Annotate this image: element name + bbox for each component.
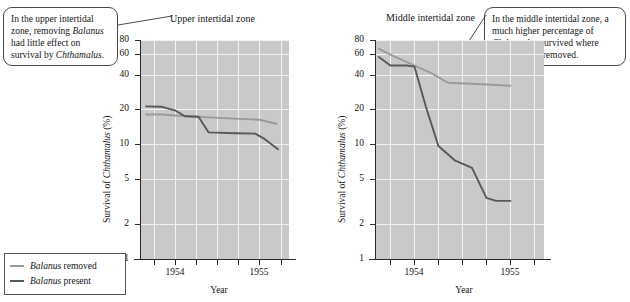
y-axis-tick — [370, 40, 375, 41]
x-axis-tick — [196, 260, 197, 265]
y-axis-tick — [135, 109, 140, 110]
series-line — [146, 115, 276, 124]
x-axis-tick — [175, 260, 176, 265]
y-axis-tick — [135, 40, 140, 41]
y-axis-tick-label: 20 — [340, 104, 364, 114]
plot-area-middle — [376, 40, 544, 259]
y-axis-tick — [370, 224, 375, 225]
x-axis-tick — [390, 260, 391, 265]
y-axis-tick — [135, 179, 140, 180]
x-axis-tick — [510, 260, 511, 265]
x-axis-tick-label: 1954 — [155, 268, 195, 278]
series-layer-upper — [141, 40, 289, 259]
plot-area-upper — [141, 40, 289, 259]
y-axis-tick — [135, 54, 140, 55]
legend-swatch-present — [10, 280, 24, 282]
x-axis-tick — [462, 260, 463, 265]
y-axis-tick — [135, 259, 140, 260]
x-axis-tick — [217, 260, 218, 265]
legend-label-present: Balanus present — [30, 276, 91, 286]
x-axis-tick — [259, 260, 260, 265]
y-axis-tick-label: 60 — [105, 49, 129, 59]
y-axis-tick-label: 80 — [340, 35, 364, 45]
y-axis-tick-label: 20 — [105, 104, 129, 114]
y-axis-tick — [370, 259, 375, 260]
y-axis-tick-label: 80 — [105, 35, 129, 45]
series-line — [379, 49, 511, 86]
legend-item-balanus-present: Balanus present — [10, 273, 120, 288]
x-axis-title-upper: Year — [169, 285, 269, 295]
x-axis-upper — [134, 259, 296, 260]
y-axis-tick-label: 60 — [340, 49, 364, 59]
chart-panel-middle: 125102040608019541955 Year Survival of C… — [329, 33, 529, 278]
y-axis-tick — [135, 144, 140, 145]
y-axis-tick-label: 40 — [105, 70, 129, 80]
x-axis-tick-label: 1955 — [490, 268, 530, 278]
y-axis-tick — [135, 224, 140, 225]
y-axis-tick-label: 1 — [340, 254, 364, 264]
y-axis-upper — [140, 40, 141, 260]
leader-line-left — [118, 14, 174, 26]
y-axis-tick — [370, 75, 375, 76]
x-axis-tick — [238, 260, 239, 265]
series-line — [146, 106, 278, 149]
x-axis-tick — [154, 260, 155, 265]
chart-title-upper: Upper intertidal zone — [170, 13, 255, 24]
y-axis-tick — [370, 179, 375, 180]
chart-title-middle: Middle intertidal zone — [386, 12, 475, 23]
x-axis-title-middle: Year — [414, 285, 514, 295]
series-layer-middle — [376, 40, 544, 259]
y-axis-title-middle: Survival of Chthamalus (%) — [337, 116, 347, 223]
legend-label-removed: Balanus removed — [30, 261, 97, 271]
y-axis-tick — [370, 54, 375, 55]
y-axis-tick — [370, 144, 375, 145]
chart-panel-upper: 125102040608019541955 Year Survival of C… — [94, 33, 294, 278]
y-axis-title-upper: Survival of Chthamalus (%) — [102, 116, 112, 223]
x-axis-middle — [369, 259, 551, 260]
legend-swatch-removed — [10, 265, 24, 267]
x-axis-tick-label: 1954 — [394, 268, 434, 278]
x-axis-tick — [486, 260, 487, 265]
legend: Balanus removed Balanus present — [4, 253, 126, 295]
y-axis-tick — [370, 109, 375, 110]
x-axis-tick — [438, 260, 439, 265]
y-axis-middle — [375, 40, 376, 260]
x-axis-tick — [281, 260, 282, 265]
y-axis-tick — [135, 75, 140, 76]
barnacle-survival-figure: In the upper intertidal zone, removing B… — [0, 0, 630, 302]
x-axis-tick — [414, 260, 415, 265]
series-line — [379, 57, 511, 201]
x-axis-tick — [534, 260, 535, 265]
legend-item-balanus-removed: Balanus removed — [10, 258, 120, 273]
y-axis-tick-label: 40 — [340, 70, 364, 80]
x-axis-tick-label: 1955 — [239, 268, 279, 278]
